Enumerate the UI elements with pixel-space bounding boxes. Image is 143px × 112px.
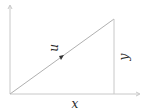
vector-label-u: u <box>47 44 61 52</box>
vector-diagram: u y x <box>0 0 143 112</box>
horizontal-component-label-x: x <box>72 97 79 111</box>
vertical-component-label-y: y <box>117 53 131 61</box>
vector-arrowhead-icon <box>59 55 64 60</box>
